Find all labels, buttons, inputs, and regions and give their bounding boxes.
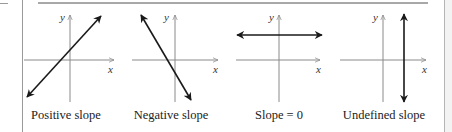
y-axis-label: y bbox=[59, 11, 65, 23]
y-axis-label: y bbox=[268, 11, 274, 23]
positive-slope-line bbox=[27, 16, 101, 97]
label-zero-slope: Slope = 0 bbox=[255, 108, 303, 123]
x-axis-label: x bbox=[315, 63, 321, 75]
panel-undefined-slope: y x bbox=[340, 11, 427, 102]
x-axis-label: x bbox=[421, 63, 427, 75]
y-axis-label: y bbox=[163, 11, 169, 23]
y-axis-label: y bbox=[372, 11, 378, 23]
label-positive-slope: Positive slope bbox=[31, 108, 101, 123]
label-negative-slope: Negative slope bbox=[134, 108, 209, 123]
panel-zero-slope: y x bbox=[236, 11, 322, 102]
panel-positive-slope: y x bbox=[24, 11, 114, 102]
panel-negative-slope: y x bbox=[132, 11, 218, 102]
x-axis-label: x bbox=[212, 63, 218, 75]
label-undefined-slope: Undefined slope bbox=[343, 108, 425, 123]
x-axis-label: x bbox=[107, 63, 113, 75]
negative-slope-line bbox=[141, 15, 191, 100]
